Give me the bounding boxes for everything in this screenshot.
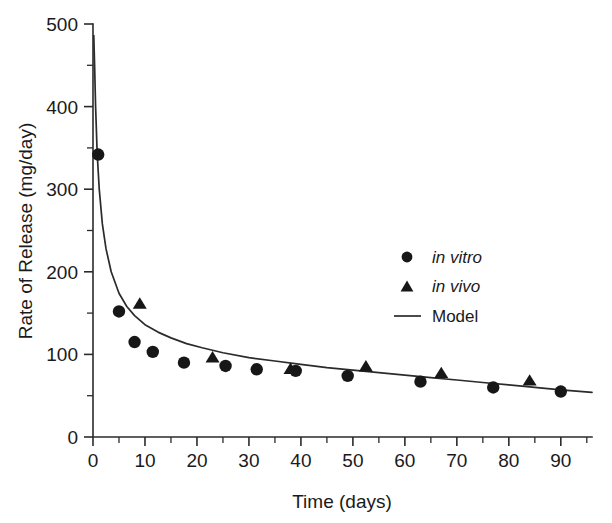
x-tick-label: 60 xyxy=(394,450,415,471)
data-point-in-vitro xyxy=(113,305,125,317)
x-tick-label: 70 xyxy=(446,450,467,471)
data-point-in-vitro xyxy=(147,346,159,358)
y-tick-label: 400 xyxy=(46,97,78,118)
x-tick-label: 90 xyxy=(550,450,571,471)
x-tick-label: 50 xyxy=(342,450,363,471)
x-tick-label: 0 xyxy=(88,450,99,471)
legend-label-in-vivo: in vivo xyxy=(432,277,480,296)
data-point-in-vitro xyxy=(92,148,104,160)
legend-label-model: Model xyxy=(432,307,478,326)
data-point-in-vitro xyxy=(555,385,567,397)
x-tick-label: 80 xyxy=(498,450,519,471)
data-point-in-vitro xyxy=(219,360,231,372)
x-tick-label: 20 xyxy=(186,450,207,471)
x-axis-title: Time (days) xyxy=(292,491,392,512)
y-tick-label: 500 xyxy=(46,14,78,35)
data-point-in-vitro xyxy=(251,363,263,375)
y-axis-title: Rate of Release (mg/day) xyxy=(15,123,36,340)
y-tick-label: 100 xyxy=(46,344,78,365)
y-tick-label: 200 xyxy=(46,262,78,283)
x-tick-label: 10 xyxy=(134,450,155,471)
release-rate-chart: 0100200300400500 0102030405060708090 Tim… xyxy=(0,0,612,523)
x-tick-label: 40 xyxy=(290,450,311,471)
data-point-in-vitro xyxy=(178,356,190,368)
legend-label-in-vitro: in vitro xyxy=(432,248,482,267)
y-tick-label: 300 xyxy=(46,179,78,200)
data-point-in-vitro xyxy=(414,375,426,387)
data-point-in-vitro xyxy=(342,370,354,382)
legend-circle-icon xyxy=(402,252,413,263)
data-point-in-vitro xyxy=(128,336,140,348)
y-tick-label: 0 xyxy=(67,427,78,448)
chart-canvas: 0100200300400500 0102030405060708090 Tim… xyxy=(0,0,612,523)
data-point-in-vitro xyxy=(487,381,499,393)
x-tick-label: 30 xyxy=(238,450,259,471)
chart-background xyxy=(0,0,612,523)
